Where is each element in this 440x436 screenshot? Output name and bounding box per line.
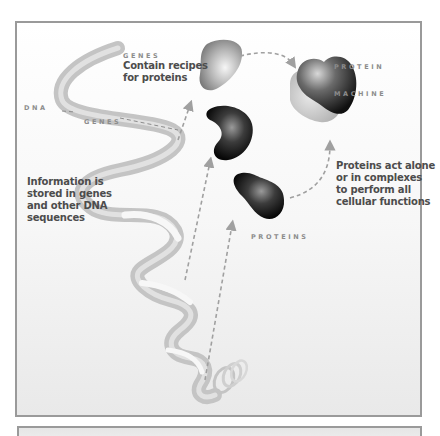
arrow-protein-to-machine (240, 53, 293, 64)
protein-dark-2 (234, 173, 284, 219)
label-proteins: PROTEINS (251, 233, 309, 242)
label-genes-on-helix: GENES (84, 118, 121, 127)
arrow-dna-to-protein-3 (205, 225, 232, 380)
proteins-caption: Proteins act alone or in complexes to pe… (336, 160, 435, 208)
arrow-dna-to-protein-2 (185, 162, 210, 280)
arrow-proteins-to-machine (290, 145, 330, 198)
label-dna: DNA (24, 104, 48, 113)
dna-caption: Information is stored in genes and other… (27, 176, 112, 224)
protein-dark-1 (206, 106, 252, 161)
genes-caption: Contain recipes for proteins (123, 60, 208, 84)
label-protein-machine: PROTEIN MACHINE (334, 45, 386, 108)
